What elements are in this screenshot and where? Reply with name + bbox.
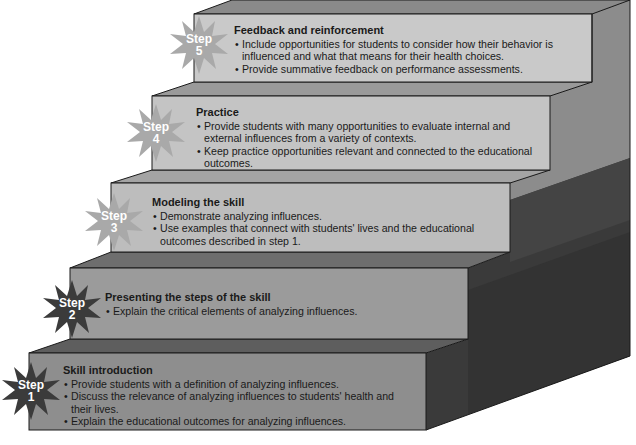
step-4-bullet: Keep practice opportunities relevant and…	[196, 145, 546, 170]
step-4-content: Practice Provide students with many oppo…	[196, 106, 546, 170]
step-5-bullet: Provide summative feedback on performanc…	[234, 63, 584, 76]
step-2-content: Presenting the steps of the skill Explai…	[105, 291, 455, 317]
staircase-diagram: Step 5 Feedback and reinforcement Includ…	[0, 0, 636, 445]
step-1-number: 1	[28, 391, 35, 403]
step-4-badge: Step 4	[127, 104, 185, 162]
step-1-bullet: Discuss the relevance of analyzing influ…	[63, 390, 413, 415]
step-4-number: 4	[153, 133, 160, 145]
step-3-badge: Step 3	[85, 193, 143, 251]
step-3-bullet: Demonstrate analyzing influences.	[152, 210, 502, 223]
step-5-badge: Step 5	[170, 16, 228, 74]
step-5-content: Feedback and reinforcement Include oppor…	[234, 24, 584, 75]
step-2-title: Presenting the steps of the skill	[105, 291, 455, 304]
step-5-title: Feedback and reinforcement	[234, 24, 584, 37]
step-3-title: Modeling the skill	[152, 196, 502, 209]
step-2-badge: Step 2	[43, 280, 101, 338]
step-1-bullet: Provide students with a definition of an…	[63, 378, 413, 391]
step-2-number: 2	[69, 309, 76, 321]
step-1-bullet: Explain the educational outcomes for ana…	[63, 415, 413, 428]
step-3-bullet: Use examples that connect with students'…	[152, 222, 502, 247]
step-2-bullet: Explain the critical elements of analyzi…	[105, 305, 455, 318]
step-1-content: Skill introduction Provide students with…	[63, 364, 413, 428]
step-3-number: 3	[111, 222, 118, 234]
step-1-badge: Step 1	[2, 362, 60, 420]
step-1-title: Skill introduction	[63, 364, 413, 377]
step-4-bullet: Provide students with many opportunities…	[196, 120, 546, 145]
step-5-bullet: Include opportunities for students to co…	[234, 38, 584, 63]
step-4-title: Practice	[196, 106, 546, 119]
step-5-number: 5	[196, 45, 203, 57]
step-3-content: Modeling the skill Demonstrate analyzing…	[152, 196, 502, 247]
